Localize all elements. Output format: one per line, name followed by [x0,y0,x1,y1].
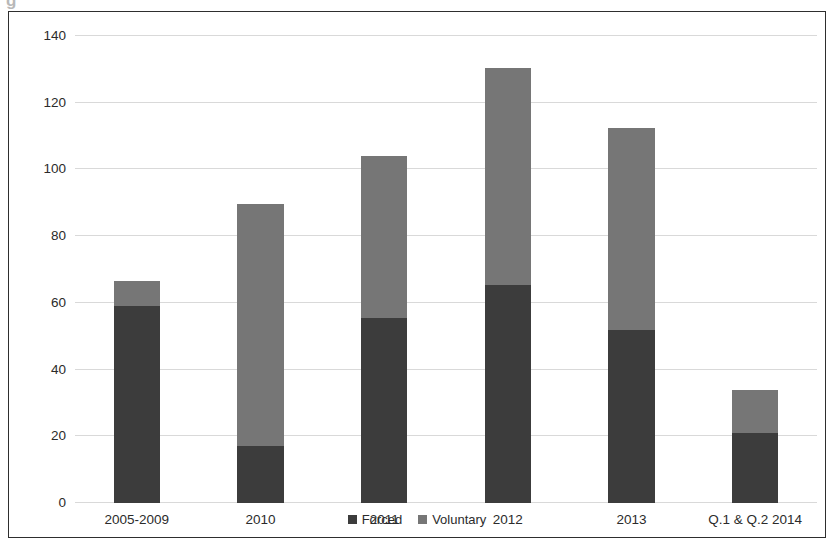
chart-page: g 020406080100120140 2005-20092010201120… [0,0,836,546]
legend-label: Voluntary [432,512,486,527]
y-axis-tick-label: 40 [51,361,66,376]
bar-segment-forced[interactable] [361,318,407,503]
bar-segment-forced[interactable] [237,446,283,503]
y-axis-tick-label: 80 [51,228,66,243]
y-axis-tick-label: 140 [43,28,66,43]
bar-group: 2013 [608,36,654,503]
stacked-bar[interactable] [608,128,654,503]
y-axis-tick-label: 120 [43,94,66,109]
stacked-bar[interactable] [361,156,407,503]
bar-group: 2012 [485,36,531,503]
stacked-bar[interactable] [485,68,531,503]
bar-segment-forced[interactable] [608,330,654,503]
chart-frame: 020406080100120140 2005-2009201020112012… [8,11,826,538]
bar-segment-voluntary[interactable] [485,68,531,285]
bar-group: 2005-2009 [114,36,160,503]
legend-swatch-icon [348,515,357,524]
y-axis-tick-label: 100 [43,161,66,176]
stacked-bar[interactable] [732,390,778,503]
stacked-bar[interactable] [114,281,160,503]
legend-label: Forced [362,512,402,527]
bar-series-container: 2005-20092010201120122013Q.1 & Q.2 2014 [75,36,817,503]
chart-legend: ForcedVoluntary [9,512,825,527]
bar-segment-forced[interactable] [114,306,160,503]
stacked-bar[interactable] [237,204,283,503]
bar-segment-voluntary[interactable] [237,204,283,446]
bar-segment-voluntary[interactable] [361,156,407,318]
legend-item[interactable]: Forced [348,512,402,527]
bar-segment-voluntary[interactable] [732,390,778,433]
bar-segment-voluntary[interactable] [608,128,654,330]
legend-swatch-icon [418,515,427,524]
bar-group: 2011 [361,36,407,503]
y-axis-tick-label: 0 [58,495,66,510]
bar-segment-voluntary[interactable] [114,281,160,306]
bar-segment-forced[interactable] [732,433,778,503]
y-axis-tick-label: 60 [51,294,66,309]
bar-group: 2010 [237,36,283,503]
bar-segment-forced[interactable] [485,285,531,503]
scan-artifact-glyph: g [6,0,32,10]
legend-item[interactable]: Voluntary [418,512,486,527]
bar-group: Q.1 & Q.2 2014 [732,36,778,503]
y-axis-tick-label: 20 [51,428,66,443]
plot-area: 020406080100120140 2005-2009201020112012… [75,36,817,503]
